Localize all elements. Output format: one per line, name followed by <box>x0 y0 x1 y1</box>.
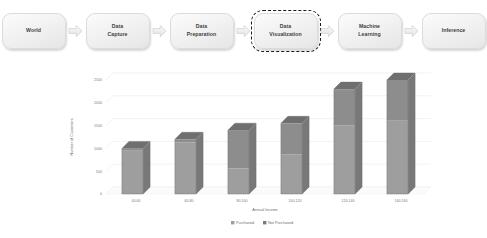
legend-swatch <box>263 221 266 224</box>
arrow-right-icon <box>404 24 419 38</box>
pipeline-stage-label: Data Capture <box>106 23 130 38</box>
bar-chart: 0500100015002000250040-6060-8080-100100-… <box>62 66 432 234</box>
y-axis-tick: 1500 <box>94 124 102 128</box>
legend-label: Not Purchased <box>268 221 293 225</box>
bar-column <box>228 123 256 194</box>
bar-column <box>175 132 203 194</box>
x-axis-tick: 140-160 <box>394 199 407 203</box>
pipeline-stage-data-capture[interactable]: Data Capture <box>86 13 150 49</box>
x-axis-tick: 40-60 <box>131 199 140 203</box>
y-axis-tick: 1000 <box>94 147 102 151</box>
pipeline-stage-label: Data Preparation <box>185 23 218 38</box>
arrow-right-icon <box>236 24 251 38</box>
x-axis-tick: 80-100 <box>236 199 247 203</box>
arrow-right-icon <box>320 24 335 38</box>
pipeline-stage-label: World <box>24 27 43 35</box>
pipeline-stage-data-preparation[interactable]: Data Preparation <box>170 13 234 49</box>
pipeline-stage-label: Machine Learning <box>356 23 382 38</box>
y-axis-tick: 0 <box>100 192 102 196</box>
pipeline-stage-data-visualization[interactable]: Data Visualization <box>254 13 318 49</box>
bar-column <box>122 141 150 194</box>
pipeline-stage-machine-learning[interactable]: Machine Learning <box>338 13 402 49</box>
pipeline-stage-inference[interactable]: Inference <box>422 13 486 49</box>
legend-swatch <box>231 221 234 224</box>
y-axis-tick: 2000 <box>94 101 102 105</box>
y-axis-tick: 500 <box>96 170 102 174</box>
x-axis-tick: 100-120 <box>288 199 301 203</box>
y-axis-tick: 2500 <box>94 78 102 82</box>
pipeline-stage-label: Inference <box>440 27 468 35</box>
x-axis-tick: 120-140 <box>341 199 354 203</box>
bar-column <box>387 73 415 194</box>
pipeline-stage-label: Data Visualization <box>267 23 303 38</box>
legend-label: Purchased <box>236 221 254 225</box>
arrow-right-icon <box>68 24 83 38</box>
y-axis-title: Number of Customers <box>70 118 74 155</box>
pipeline-diagram: WorldData CaptureData PreparationData Vi… <box>0 0 487 62</box>
pipeline-stage-world[interactable]: World <box>2 13 66 49</box>
arrow-right-icon <box>152 24 167 38</box>
x-axis-title: Annual Income <box>252 208 277 212</box>
bar-column <box>281 116 309 194</box>
bar-column <box>334 82 362 194</box>
x-axis-tick: 60-80 <box>184 199 193 203</box>
